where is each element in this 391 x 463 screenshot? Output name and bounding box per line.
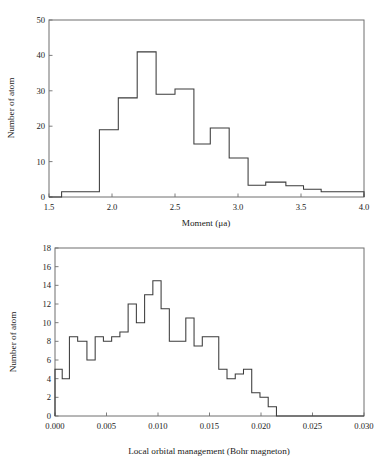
y-axis-tick-label: 4 [47, 374, 52, 384]
x-axis-tick-label: 2.5 [170, 202, 181, 212]
y-axis-tick-label: 18 [42, 243, 51, 253]
y-axis-tick-label: 14 [42, 280, 51, 290]
x-axis-tick-label: 0.005 [97, 421, 116, 431]
y-axis-tick-label: 10 [42, 318, 51, 328]
x-axis-tick-label: 0.020 [251, 421, 270, 431]
x-axis-label-top: Moment (μa) [182, 218, 231, 228]
y-axis-tick-label: 40 [36, 50, 45, 60]
x-axis-tick-label: 4.0 [359, 202, 370, 212]
x-axis-tick-label: 0.025 [303, 421, 322, 431]
y-axis-label-bottom: Number of atom [8, 312, 18, 373]
y-axis-tick-label: 6 [47, 355, 52, 365]
x-axis-tick-label: 0.015 [200, 421, 219, 431]
histogram-step-outline [55, 281, 364, 416]
plot-frame [49, 20, 364, 197]
y-axis-tick-label: 2 [47, 392, 51, 402]
x-axis-tick-label: 2.0 [107, 202, 118, 212]
y-axis-tick-label: 16 [42, 262, 51, 272]
x-axis-tick-label: 0.010 [148, 421, 167, 431]
x-axis-tick-label: 0.030 [354, 421, 373, 431]
local-orbital-histogram-figure: 0.0000.0050.0100.0150.0200.0250.03002468… [0, 232, 391, 463]
histogram-step-outline [49, 52, 364, 197]
y-axis-tick-label: 12 [42, 299, 51, 309]
x-axis-tick-label: 3.0 [233, 202, 244, 212]
moment-histogram-plot: 1.52.02.53.03.54.001020304050 Number of … [0, 0, 391, 232]
figure-page: 1.52.02.53.03.54.001020304050 Number of … [0, 0, 391, 463]
local-orbital-histogram-plot: 0.0000.0050.0100.0150.0200.0250.03002468… [0, 232, 391, 463]
y-axis-tick-label: 50 [36, 15, 45, 25]
x-axis-tick-label: 3.5 [296, 202, 307, 212]
x-axis-tick-label: 1.5 [44, 202, 55, 212]
y-axis-tick-label: 0 [41, 192, 45, 202]
x-axis-label-bottom: Local orbital management (Bohr magneton) [128, 446, 290, 456]
y-axis-tick-label: 20 [36, 121, 45, 131]
x-axis-tick-label: 0.000 [45, 421, 64, 431]
y-axis-tick-label: 10 [36, 157, 45, 167]
y-axis-tick-label: 30 [36, 86, 45, 96]
y-axis-tick-label: 0 [47, 411, 51, 421]
plot-frame [55, 248, 364, 416]
y-axis-tick-label: 8 [47, 336, 51, 346]
y-axis-label-top: Number of atom [6, 78, 16, 139]
moment-histogram-figure: 1.52.02.53.03.54.001020304050 Number of … [0, 0, 391, 232]
